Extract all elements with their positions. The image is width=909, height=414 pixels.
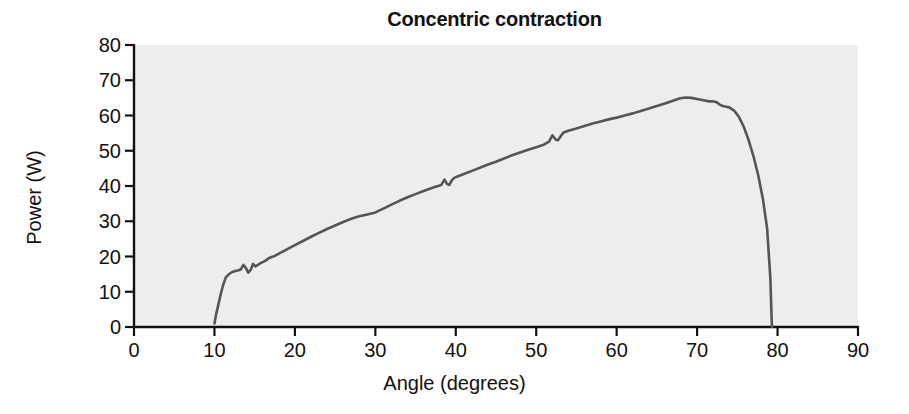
y-tick-label: 0 [75,317,121,337]
x-tick-marks [134,327,858,336]
chart-figure: Concentric contraction Power (W) Angle (… [0,0,909,414]
y-tick-label: 70 [75,70,121,90]
x-tick-label: 60 [597,340,637,360]
x-tick-label: 50 [516,340,556,360]
x-tick-label: 80 [758,340,798,360]
x-tick-label: 40 [436,340,476,360]
y-tick-label: 60 [75,106,121,126]
plot-background [134,45,858,327]
y-tick-label: 40 [75,176,121,196]
x-tick-label: 70 [677,340,717,360]
y-tick-label: 10 [75,282,121,302]
x-tick-label: 0 [114,340,154,360]
x-tick-label: 30 [355,340,395,360]
x-tick-label: 10 [194,340,234,360]
y-tick-label: 20 [75,247,121,267]
x-tick-label: 20 [275,340,315,360]
x-tick-label: 90 [838,340,878,360]
y-tick-label: 30 [75,211,121,231]
y-tick-marks [125,45,134,327]
y-tick-label: 80 [75,35,121,55]
y-tick-label: 50 [75,141,121,161]
